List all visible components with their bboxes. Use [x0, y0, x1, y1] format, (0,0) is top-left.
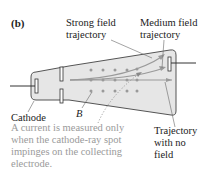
collecting-electrode	[168, 57, 171, 71]
cathode-electrode	[35, 79, 38, 93]
no-field-label-line1: Trajectory	[154, 125, 197, 137]
strong-field-leader	[111, 40, 152, 58]
tube-body	[31, 50, 176, 115]
anode-upper	[60, 67, 63, 81]
cathode-leader	[28, 101, 34, 112]
anode-lower	[60, 89, 63, 103]
caption: A current is measured only when the cath…	[11, 122, 136, 170]
b-field-label: B	[76, 108, 82, 120]
no-field-label-line3: field	[154, 149, 173, 161]
no-field-label-line2: with no	[154, 137, 186, 149]
